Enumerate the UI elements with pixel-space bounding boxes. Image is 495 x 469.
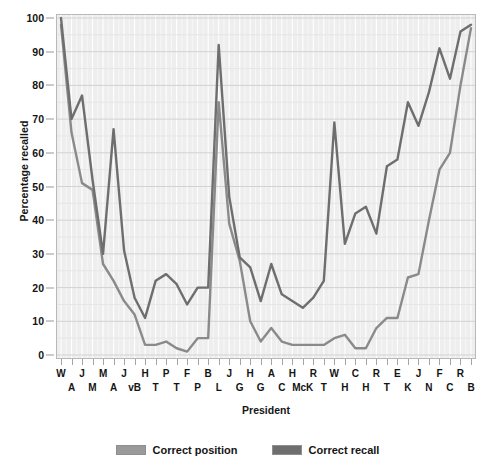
x-tick-mark: [387, 359, 388, 365]
x-tick-mark: [460, 359, 461, 365]
x-tick-label: M: [99, 368, 107, 379]
x-tick-mark: [261, 359, 262, 365]
x-tick-label: R: [310, 368, 317, 379]
y-tick-mark: [46, 220, 54, 221]
y-tick-label: 60: [32, 147, 44, 159]
x-tick-label: N: [425, 382, 432, 393]
x-tick-mark: [408, 359, 409, 365]
chart-legend: Correct positionCorrect recall: [0, 437, 495, 463]
y-tick-mark: [46, 186, 54, 187]
x-tick-mark: [135, 359, 136, 365]
x-tick-mark: [103, 359, 104, 365]
y-tick-label: 20: [32, 282, 44, 294]
x-tick-mark: [219, 359, 220, 365]
chart-svg: [57, 15, 475, 358]
y-tick-mark: [46, 287, 54, 288]
y-tick-label: 10: [32, 315, 44, 327]
x-tick-mark: [124, 359, 125, 365]
x-tick-mark: [93, 359, 94, 365]
x-tick-mark: [292, 359, 293, 365]
x-tick-label: H: [247, 368, 254, 379]
x-tick-label: J: [226, 368, 232, 379]
x-tick-label: J: [121, 368, 127, 379]
y-tick-mark: [46, 18, 54, 19]
x-tick-label: T: [384, 382, 390, 393]
x-tick-label: G: [257, 382, 265, 393]
x-tick-label: C: [352, 368, 359, 379]
x-tick-label: W: [56, 368, 65, 379]
x-tick-label: F: [436, 368, 442, 379]
x-tick-label: H: [341, 382, 348, 393]
x-tick-mark: [345, 359, 346, 365]
x-tick-mark: [82, 359, 83, 365]
x-tick-label: J: [79, 368, 85, 379]
legend-item: Correct recall: [272, 444, 380, 456]
x-axis-tick-labels: WAJMMAJvBHTPTFPBLJGHGACHMcKRTWHCHRTEKJNF…: [56, 368, 476, 402]
y-tick-mark: [46, 253, 54, 254]
y-tick-label: 100: [26, 12, 44, 24]
x-tick-label: H: [141, 368, 148, 379]
x-tick-mark: [271, 359, 272, 365]
legend-label: Correct recall: [309, 444, 380, 456]
x-tick-mark: [229, 359, 230, 365]
legend-item: Correct position: [116, 444, 238, 456]
x-tick-label: K: [404, 382, 411, 393]
x-tick-label: T: [321, 382, 327, 393]
x-tick-mark: [450, 359, 451, 365]
x-tick-label: L: [216, 382, 222, 393]
x-tick-label: B: [205, 368, 212, 379]
x-tick-mark: [429, 359, 430, 365]
x-tick-mark: [313, 359, 314, 365]
x-tick-mark: [324, 359, 325, 365]
x-tick-label: C: [278, 382, 285, 393]
x-tick-mark: [61, 359, 62, 365]
x-tick-label: R: [457, 368, 464, 379]
x-tick-mark: [240, 359, 241, 365]
x-tick-mark: [250, 359, 251, 365]
x-tick-label: R: [373, 368, 380, 379]
x-axis-title: President: [56, 404, 476, 416]
y-tick-mark: [46, 321, 54, 322]
legend-label: Correct position: [153, 444, 238, 456]
x-tick-label: T: [174, 382, 180, 393]
x-tick-mark: [439, 359, 440, 365]
y-tick-label: 90: [32, 46, 44, 58]
x-tick-mark: [303, 359, 304, 365]
y-tick-label: 30: [32, 248, 44, 260]
x-tick-label: H: [362, 382, 369, 393]
x-tick-mark: [198, 359, 199, 365]
y-tick-label: 50: [32, 181, 44, 193]
y-tick-mark: [46, 51, 54, 52]
x-tick-label: P: [194, 382, 201, 393]
x-tick-label: E: [394, 368, 401, 379]
y-tick-mark: [46, 355, 54, 356]
x-tick-mark: [471, 359, 472, 365]
x-tick-mark: [177, 359, 178, 365]
x-tick-label: B: [467, 382, 474, 393]
x-tick-label: M: [88, 382, 96, 393]
y-tick-mark: [46, 152, 54, 153]
y-tick-label: 80: [32, 79, 44, 91]
x-tick-mark: [156, 359, 157, 365]
x-tick-mark: [366, 359, 367, 365]
x-tick-label: vB: [128, 382, 141, 393]
x-tick-label: A: [268, 368, 275, 379]
x-tick-label: G: [236, 382, 244, 393]
x-axis-tick-marks: [56, 359, 476, 367]
x-tick-mark: [334, 359, 335, 365]
y-tick-label: 40: [32, 214, 44, 226]
x-tick-label: A: [68, 382, 75, 393]
x-tick-label: A: [110, 382, 117, 393]
x-tick-mark: [187, 359, 188, 365]
x-tick-label: J: [416, 368, 422, 379]
x-tick-label: W: [330, 368, 339, 379]
x-tick-mark: [376, 359, 377, 365]
x-tick-mark: [208, 359, 209, 365]
x-tick-mark: [418, 359, 419, 365]
x-tick-label: F: [184, 368, 190, 379]
y-tick-label: 70: [32, 113, 44, 125]
chart-figure: Percentage recalled 01020304050607080901…: [0, 0, 495, 469]
x-tick-label: McK: [292, 382, 313, 393]
plot-area: [56, 14, 476, 359]
x-tick-mark: [145, 359, 146, 365]
